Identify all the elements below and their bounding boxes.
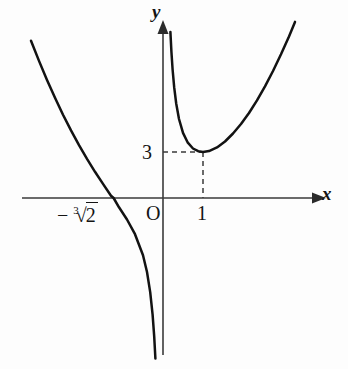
radical-index-three: 3 [73,205,79,216]
graph-figure: y x O 3 1 − 3 √2 [0,0,348,369]
y-axis-arrow-icon [158,20,169,34]
cube-root-radical: 3 √2 [70,205,97,225]
curve-right-branch [170,22,295,152]
curve-left-branch [31,41,155,359]
y-tick-label-three: 3 [142,142,152,162]
minus-glyph: − [57,205,68,225]
radical-body: √2 [76,205,98,225]
x-tick-label-neg-cube-root-two: − 3 √2 [57,205,98,225]
x-axis-label: x [322,184,332,203]
plot-canvas [0,0,348,369]
y-axis-label: y [152,2,160,21]
x-tick-label-one: 1 [197,203,207,223]
origin-label: O [146,203,160,223]
radicand-two: 2 [86,202,98,226]
